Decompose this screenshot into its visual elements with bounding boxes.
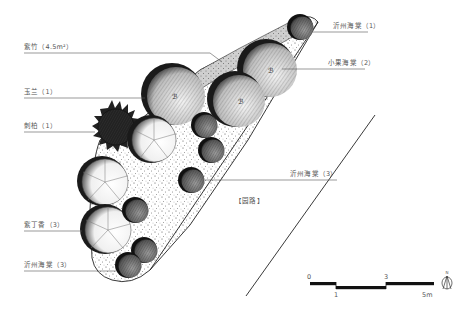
scale-tick-1: 1 (334, 291, 338, 299)
north-arrow-icon: N (442, 270, 452, 289)
label-small-crabapple: 小果海棠（2） (328, 59, 376, 67)
svg-text:ℬ: ℬ (268, 67, 274, 75)
svg-text:N: N (446, 270, 449, 275)
label-crabapple-bottom: 沂州海棠（3） (24, 261, 72, 269)
label-juniper: 刺柏（1） (24, 122, 57, 130)
scale-tick-5m: 5m (422, 291, 432, 299)
label-lilac: 紫丁香（3） (24, 221, 64, 229)
scale-bar (310, 282, 434, 289)
scale-tick-3: 3 (384, 273, 388, 281)
label-bamboo: 紫竹（4.5m²） (24, 43, 73, 51)
label-crabapple-mid: 沂州海棠（3） (290, 170, 338, 178)
label-garden-path: 【园路】 (235, 197, 264, 205)
path-edge-right (246, 115, 375, 296)
scale-tick-0: 0 (307, 273, 311, 281)
svg-text:ℬ: ℬ (238, 98, 244, 106)
label-magnolia: 玉兰（1） (24, 88, 57, 96)
svg-text:ℬ: ℬ (172, 93, 178, 101)
label-crabapple-top: 沂州海棠（1） (333, 22, 381, 30)
